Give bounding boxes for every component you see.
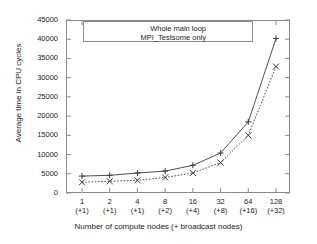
x-tick-main: 1 (80, 197, 84, 206)
x-axis-ticks (82, 20, 276, 193)
x-tick-main: 64 (244, 197, 252, 206)
x-tick-main: 4 (135, 197, 139, 206)
legend-item-1: MPI_Testsome only (84, 34, 252, 44)
x-tick-main: 2 (108, 197, 112, 206)
x-tick-sub: (+32) (256, 206, 296, 215)
legend: Whole main loop MPI_Testsome only (83, 21, 253, 42)
legend-label-0: Whole main loop (150, 24, 206, 33)
x-tick-label: 128(+32) (256, 197, 296, 215)
series-lines (79, 35, 279, 185)
x-tick-main: 8 (163, 197, 167, 206)
chart-container: 0500010000150002000025000300003500040000… (0, 0, 317, 244)
y-axis-title: Average time in CPU cycles (14, 8, 23, 178)
y-tick-label: 0 (14, 189, 58, 197)
x-tick-main: 32 (216, 197, 224, 206)
x-axis-title: Number of compute nodes (+ broadcast nod… (0, 222, 317, 231)
legend-label-1: MPI_Testsome only (141, 33, 206, 42)
x-tick-main: 16 (189, 197, 197, 206)
y-axis-ticks (66, 20, 290, 193)
series-line-0 (82, 38, 276, 176)
x-tick-main: 128 (270, 197, 283, 206)
series-line-1 (82, 67, 276, 183)
